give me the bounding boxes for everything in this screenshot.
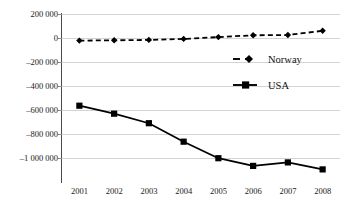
legend-marker-square-icon — [232, 78, 266, 92]
legend-item-usa: USA — [232, 74, 340, 96]
legend-marker-diamond-icon — [232, 52, 266, 66]
line-chart: 200 000 0 –200 000 –400 000 –600 000 –80… — [0, 0, 347, 212]
series-norway — [76, 28, 326, 44]
legend-label-norway: Norway — [266, 54, 302, 65]
legend-item-norway: Norway — [232, 48, 340, 70]
legend: Norway USA — [232, 48, 340, 92]
series-layer — [0, 0, 347, 212]
legend-label-usa: USA — [266, 80, 289, 91]
series-usa — [76, 103, 325, 173]
